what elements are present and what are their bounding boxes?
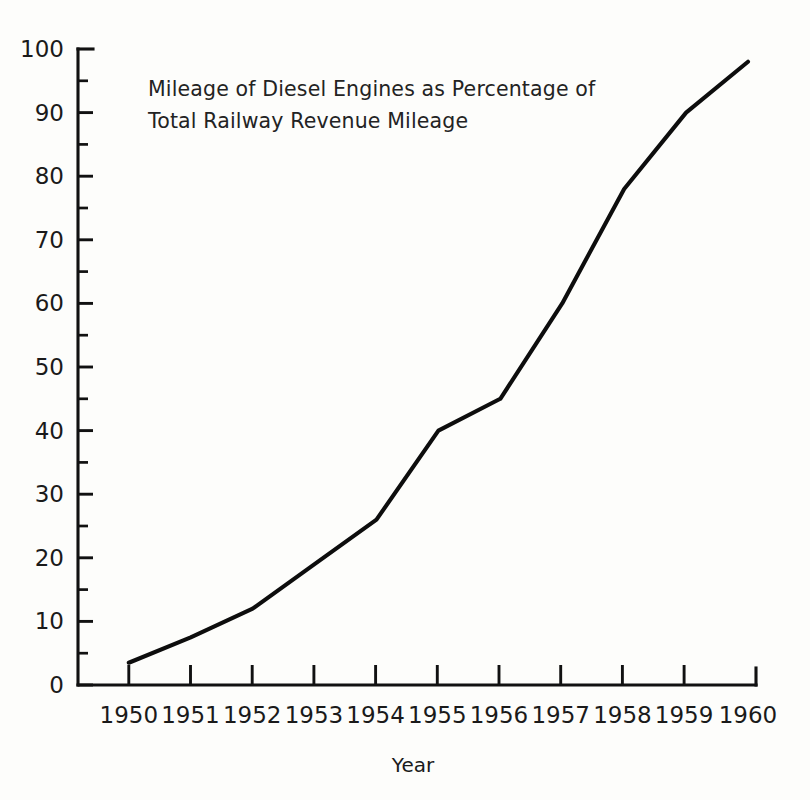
x-axis-label-1953: 1953 (285, 702, 344, 728)
y-axis-label-30: 30 (35, 481, 64, 507)
x-axis-label-1959: 1959 (655, 702, 714, 728)
y-axis-label-40: 40 (35, 418, 64, 444)
y-axis-label-60: 60 (35, 290, 64, 316)
x-axis-label-1951: 1951 (161, 702, 220, 728)
chart-title-line-1: Mileage of Diesel Engines as Percentage … (148, 77, 596, 101)
x-axis-label-1960: 1960 (719, 702, 778, 728)
x-axis-label-1956: 1956 (470, 702, 529, 728)
y-axis-label-10: 10 (35, 608, 64, 634)
x-axis-label-1950: 1950 (100, 702, 159, 728)
chart-figure: Mileage of Diesel Engines as Percentage … (0, 0, 810, 800)
x-axis-label-1952: 1952 (223, 702, 282, 728)
chart-title-line-2: Total Railway Revenue Mileage (147, 109, 468, 133)
y-axis-label-0: 0 (49, 672, 64, 698)
y-axis-label-70: 70 (35, 227, 64, 253)
x-axis-label-1955: 1955 (408, 702, 467, 728)
x-axis-tick-labels: 1950 1951 1952 1953 1954 1955 1956 1957 … (100, 702, 778, 728)
x-axis-label-1954: 1954 (346, 702, 405, 728)
y-axis-label-90: 90 (35, 100, 64, 126)
y-axis-label-20: 20 (35, 545, 64, 571)
x-axis-label-1957: 1957 (531, 702, 590, 728)
y-axis-label-100: 100 (20, 36, 64, 62)
x-axis-label-1958: 1958 (593, 702, 652, 728)
y-axis-label-50: 50 (35, 354, 64, 380)
y-axis-label-80: 80 (35, 163, 64, 189)
x-axis-title: Year (391, 753, 435, 777)
line-chart: Mileage of Diesel Engines as Percentage … (0, 0, 810, 800)
